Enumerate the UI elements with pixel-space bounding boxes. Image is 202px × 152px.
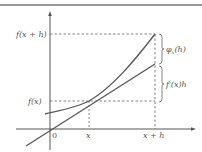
x-tick-label: x [86, 131, 91, 140]
y-axis-arrow-icon [48, 11, 52, 16]
fxh-label: f(x + h) [15, 30, 47, 39]
phi-argument: (h) [174, 45, 185, 54]
x-axis-arrow-icon [191, 127, 196, 131]
derivative-diagram: f(x + h) f(x) 0 x x + h φx(h) f′(x)h [0, 0, 202, 152]
phi-label: φx(h) [166, 45, 186, 55]
fprime-brace [159, 66, 164, 102]
fprime-label: f′(x)h [165, 80, 187, 89]
xh-tick-label: x + h [143, 131, 164, 140]
fx-label: f(x) [27, 97, 42, 106]
origin-label: 0 [52, 131, 57, 140]
phi-brace [159, 34, 164, 64]
diagram-canvas: f(x + h) f(x) 0 x x + h φx(h) f′(x)h [0, 0, 202, 152]
